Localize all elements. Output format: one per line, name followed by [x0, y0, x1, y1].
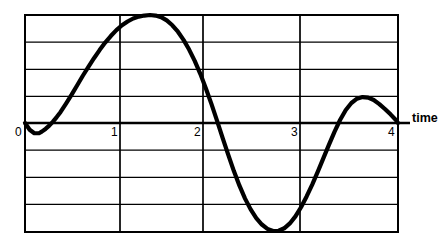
chart-plot-area: [0, 0, 444, 244]
waveform-chart-figure: 0 1 2 3 4 time: [0, 0, 444, 244]
x-tick-label-4: 4: [388, 126, 395, 138]
x-tick-label-0: 0: [15, 126, 22, 138]
x-tick-label-2: 2: [194, 126, 201, 138]
time-axis-label: time: [412, 112, 438, 125]
x-tick-label-1: 1: [111, 126, 118, 138]
x-tick-label-3: 3: [291, 126, 298, 138]
